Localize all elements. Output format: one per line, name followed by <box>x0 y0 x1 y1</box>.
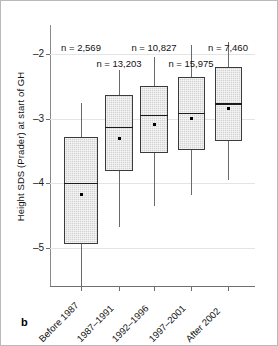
median-line <box>105 127 133 129</box>
x-axis-tick <box>228 287 229 291</box>
y-axis-tick <box>46 54 50 55</box>
sample-size-label-4: n = 15,975 <box>168 59 213 69</box>
mean-marker <box>190 117 193 120</box>
y-axis-tick-labels: –2–3–4–5 <box>1 1 44 346</box>
x-axis-tick-label-4: 1997–2001 <box>147 303 187 343</box>
box-iqr <box>140 86 168 153</box>
y-axis-tick-label: –5 <box>33 243 44 253</box>
gridline <box>50 54 255 55</box>
whisker-lower <box>119 171 120 228</box>
box-iqr <box>105 95 133 171</box>
x-axis-tick-label-5: After 2002 <box>184 306 222 344</box>
box-iqr <box>64 137 98 244</box>
mean-marker <box>153 123 156 126</box>
whisker-lower <box>154 153 155 206</box>
y-axis-tick <box>46 183 50 184</box>
mean-marker <box>227 107 230 110</box>
x-axis-tick <box>154 287 155 291</box>
median-line <box>64 183 98 185</box>
sample-size-label-3: n = 10,827 <box>131 43 176 53</box>
sample-size-label-5: n = 7,460 <box>208 43 248 53</box>
whisker-upper <box>154 57 155 85</box>
x-axis-tick <box>191 287 192 291</box>
y-axis-tick <box>46 119 50 120</box>
sample-size-label-1: n = 2,569 <box>61 43 101 53</box>
sample-size-label-2: n = 13,203 <box>96 59 141 69</box>
median-line <box>140 115 168 117</box>
x-axis-tick <box>81 287 82 291</box>
whisker-lower <box>81 244 82 291</box>
y-axis-tick-label: –4 <box>33 178 44 188</box>
mean-marker <box>118 137 121 140</box>
panel-letter: b <box>21 317 28 328</box>
whisker-lower <box>228 141 229 180</box>
whisker-upper <box>81 103 82 137</box>
y-axis-tick <box>46 248 50 249</box>
mean-marker <box>80 193 83 196</box>
y-axis-tick-label: –3 <box>33 114 44 124</box>
whisker-lower <box>191 150 192 195</box>
median-line <box>178 113 205 115</box>
x-axis-tick-label-2: 1987–1991 <box>75 303 115 343</box>
plot-area <box>50 25 255 287</box>
median-line <box>215 103 242 105</box>
whisker-upper <box>119 70 120 95</box>
x-axis-tick <box>119 287 120 291</box>
figure-panel-b: Height SDS (Prader) at start of GH –2–3–… <box>0 0 278 346</box>
y-axis-tick-label: –2 <box>33 49 44 59</box>
x-axis-tick-label-3: 1992–1996 <box>110 303 150 343</box>
